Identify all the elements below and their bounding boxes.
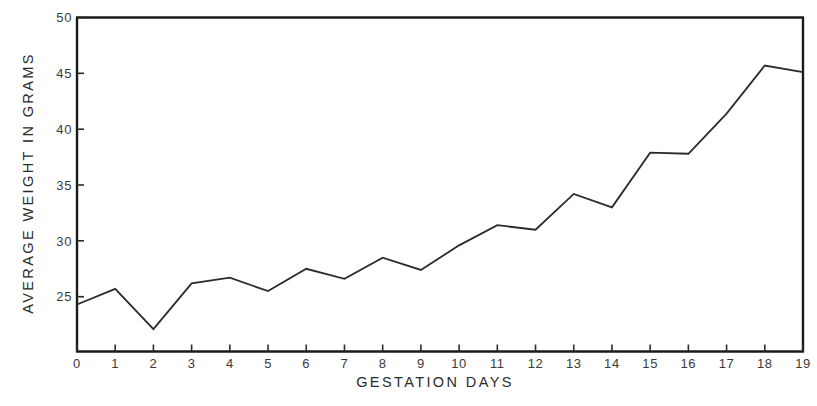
chart-figure: AVERAGE WEIGHT IN GRAMS GESTATION DAYS 5… [0, 0, 817, 406]
x-tick-label-17: 17 [719, 356, 735, 371]
y-tick-label-25: 25 [56, 289, 72, 304]
x-tick-label-4: 4 [226, 356, 234, 371]
y-tick-label-30: 30 [56, 234, 72, 249]
x-tick-label-3: 3 [188, 356, 196, 371]
y-tick-label-40: 40 [56, 122, 72, 137]
x-tick-label-1: 1 [111, 356, 119, 371]
x-tick-label-10: 10 [451, 356, 467, 371]
y-tick-label-50: 50 [56, 10, 72, 25]
x-tick-label-9: 9 [417, 356, 425, 371]
x-tick-label-0: 0 [73, 356, 81, 371]
x-tick-label-15: 15 [642, 356, 658, 371]
x-tick-label-12: 12 [528, 356, 544, 371]
x-tick-label-2: 2 [149, 356, 157, 371]
y-axis-tick-labels: 50 45 40 35 30 25 [56, 10, 72, 304]
x-tick-label-11: 11 [490, 356, 505, 371]
line-chart-canvas: AVERAGE WEIGHT IN GRAMS GESTATION DAYS 5… [0, 0, 817, 406]
x-tick-label-13: 13 [566, 356, 582, 371]
x-tick-label-16: 16 [681, 356, 697, 371]
x-tick-label-7: 7 [341, 356, 349, 371]
x-axis-tick-labels: 012345678910111213141516171819 [73, 356, 811, 371]
y-tick-label-45: 45 [56, 66, 72, 81]
y-axis-title: AVERAGE WEIGHT IN GRAMS [20, 52, 36, 314]
x-tick-label-14: 14 [604, 356, 620, 371]
x-tick-label-6: 6 [302, 356, 310, 371]
x-tick-label-19: 19 [795, 356, 811, 371]
x-tick-label-5: 5 [264, 356, 272, 371]
x-tick-label-18: 18 [757, 356, 773, 371]
x-tick-label-8: 8 [379, 356, 387, 371]
y-tick-label-35: 35 [56, 178, 72, 193]
weight-series-line [77, 66, 803, 330]
plot-frame [76, 17, 804, 352]
x-axis-title: GESTATION DAYS [356, 374, 514, 390]
